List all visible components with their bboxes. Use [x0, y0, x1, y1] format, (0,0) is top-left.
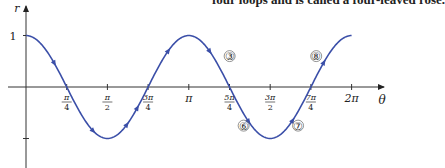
annotation-label: ⑥ [239, 120, 249, 133]
x-tick-label: 2π [343, 92, 359, 105]
x-tick-label-numerator: 3π [265, 93, 276, 102]
direction-arrow [134, 104, 141, 112]
x-tick-label-denominator: 4 [146, 103, 151, 112]
y-axis-label: r [14, 2, 20, 15]
x-tick-label-denominator: 4 [64, 103, 69, 112]
axes: θr [8, 2, 386, 168]
x-tick-label-denominator: 4 [227, 103, 232, 112]
x-tick-label-numerator: π [104, 93, 111, 102]
annotations: ③⑥⑦⑧ [224, 50, 322, 133]
direction-arrow [320, 58, 327, 66]
annotation-label: ⑧ [311, 50, 321, 63]
y-tick-label: 1 [10, 30, 17, 43]
x-tick-label-denominator: 4 [308, 103, 313, 112]
x-tick-label-denominator: 2 [105, 103, 110, 112]
x-tick-label-denominator: 2 [268, 103, 273, 112]
direction-arrow [51, 60, 58, 68]
x-tick-label: π [184, 92, 193, 105]
x-axis-label: θ [378, 93, 386, 107]
x-tick-label-numerator: π [63, 93, 70, 102]
annotation-label: ③ [225, 50, 235, 63]
annotation-label: ⑦ [293, 120, 303, 133]
ticks: π4π23π4π5π43π27π42π1 [10, 30, 360, 139]
